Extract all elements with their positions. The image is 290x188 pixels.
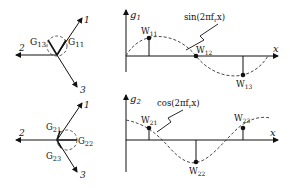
- w23-point: [241, 126, 246, 131]
- cos-label: cos(2πfrx): [157, 98, 200, 109]
- label-3: 3: [80, 85, 86, 95]
- label-g21: G21: [46, 122, 61, 134]
- label-g2: g2: [130, 93, 141, 106]
- label-w12: W12: [196, 45, 213, 56]
- label-w22: W22: [189, 166, 206, 177]
- bottom-vector-diagram: 1 2 3 G21 G22 G23: [16, 100, 93, 180]
- diagram-canvas: 1 2 3 G13 G11 g1 x sin(2πfrx) W11 W12 W1…: [0, 0, 290, 188]
- top-vector-diagram: 1 2 3 G13 G11: [16, 15, 90, 95]
- vector-3-arrow: [57, 55, 77, 87]
- label-w11: W11: [141, 26, 157, 37]
- g13-segment: [48, 40, 57, 55]
- label-1: 1: [84, 100, 90, 110]
- cos-leader: [157, 110, 183, 132]
- dashed-circle: [47, 36, 67, 56]
- w13-point: [241, 73, 246, 78]
- label-w13: W13: [236, 79, 253, 90]
- label-w21: W21: [141, 115, 157, 126]
- sin-label: sin(2πfrx): [184, 12, 225, 23]
- label-g23: G23: [46, 151, 61, 163]
- top-sine-plot: g1 x sin(2πfrx) W11 W12 W13: [126, 9, 279, 90]
- label-g11: G11: [68, 37, 84, 49]
- label-g13: G13: [30, 37, 46, 49]
- label-w23: W23: [234, 113, 251, 124]
- label-1: 1: [84, 15, 90, 25]
- label-x: x: [273, 43, 279, 54]
- label-2: 2: [18, 43, 25, 53]
- w22-point: [194, 160, 199, 165]
- bottom-cosine-plot: g2 x cos(2πfrx) W21 W22 W23: [126, 93, 278, 177]
- label-x: x: [270, 127, 276, 138]
- label-g22: G22: [78, 136, 93, 148]
- vector-1-arrow: [57, 103, 82, 140]
- w21-point: [147, 126, 152, 131]
- label-3: 3: [80, 170, 86, 180]
- label-g1: g1: [130, 9, 141, 22]
- label-2: 2: [18, 128, 25, 138]
